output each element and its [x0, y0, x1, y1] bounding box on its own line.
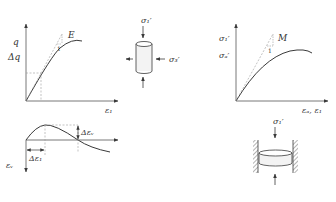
slope-unit: 1: [268, 47, 272, 54]
x-label-ea-e1: εₐ, ε₁: [302, 106, 322, 115]
stress-strain-curve: [26, 40, 82, 101]
tangent-line: [236, 34, 273, 101]
volumetric-strain-plot: Δεᵥ Δε₁ εᵥ: [6, 125, 118, 172]
left-wall-hatch: [253, 140, 258, 173]
y-label-dq: Δq: [7, 52, 20, 62]
de1-label: Δε₁: [28, 154, 42, 163]
oedometer-stress-strain-plot: σ₁′ σₐ′ εₐ, ε₁ M 1: [219, 24, 328, 115]
right-wall-hatch: [293, 140, 298, 173]
slope-unit: 1: [57, 45, 61, 52]
dev-label: Δεᵥ: [80, 128, 94, 137]
volumetric-curve: [26, 125, 110, 152]
oedometer-curve: [236, 50, 312, 101]
cylinder-body: [136, 44, 152, 71]
y-label-sa: σₐ′: [219, 51, 229, 60]
x-label-e1: ε₁: [105, 106, 113, 115]
triaxial-sample-diagram: σ₁′ σ₃′: [126, 16, 180, 88]
y-label-ev: εᵥ: [6, 161, 13, 170]
radial-stress-label: σ₃′: [169, 55, 180, 64]
axial-stress-label: σ₁′: [273, 117, 284, 126]
axial-stress-label: σ₁′: [141, 16, 152, 25]
slope-label-E: E: [67, 30, 75, 40]
sample-top: [259, 150, 292, 156]
triaxial-stress-strain-plot: q Δq ε₁ E 1: [7, 24, 118, 115]
y-label-s1: σ₁′: [219, 34, 230, 43]
cylinder-bottom: [136, 71, 152, 74]
y-label-q: q: [13, 37, 19, 47]
cylinder-top: [136, 42, 152, 47]
slope-label-M: M: [277, 33, 288, 43]
oedometer-sample-diagram: σ₁′: [253, 117, 298, 185]
